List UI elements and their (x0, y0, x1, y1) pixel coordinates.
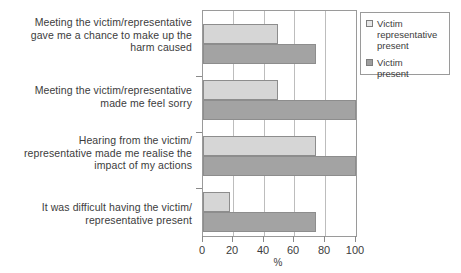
bar-cat0-series0 (203, 24, 278, 44)
legend-label-1: Victim present (377, 57, 409, 79)
x-axis-tick-20 (232, 236, 233, 242)
x-axis-title: % (258, 257, 298, 268)
x-axis-tick-60 (293, 236, 294, 242)
legend-item-1[interactable]: Victim present (366, 57, 445, 79)
category-label-2-line-1: representative made me realise the (0, 147, 192, 160)
x-axis-tick-0 (202, 236, 203, 242)
y-axis-tick-0 (196, 76, 202, 77)
x-axis-tick-100 (355, 236, 356, 242)
legend-label-1-line-0: Victim (377, 57, 403, 68)
bar-cat0-series1 (203, 44, 316, 64)
bar-cat3-series0 (203, 192, 230, 212)
bar-chart: Meeting the victim/representative gave m… (0, 0, 461, 273)
y-axis-tick-1 (196, 132, 202, 133)
legend-label-0-line-2: present (377, 40, 409, 51)
chart-legend: Victim representative present Victim pre… (360, 12, 450, 75)
category-label-0-line-1: gave me a chance to make up the (0, 29, 192, 42)
legend-label-1-line-1: present (377, 68, 409, 79)
bar-cat1-series1 (203, 100, 356, 120)
category-label-1: Meeting the victim/representative made m… (0, 84, 192, 109)
bar-cat3-series1 (203, 212, 316, 232)
category-label-0: Meeting the victim/representative gave m… (0, 16, 192, 54)
x-axis-label-100: 100 (335, 244, 375, 257)
category-label-2-line-2: impact of my actions (0, 159, 192, 172)
legend-label-0-line-0: Victim (377, 18, 403, 29)
x-axis-tick-80 (324, 236, 325, 242)
category-label-2-line-0: Hearing from the victim/ (0, 134, 192, 147)
category-label-1-line-0: Meeting the victim/representative (0, 84, 192, 97)
category-axis-labels: Meeting the victim/representative gave m… (0, 10, 192, 235)
category-label-3: It was difficult having the victim/ repr… (0, 201, 192, 226)
bar-cat1-series0 (203, 80, 278, 100)
category-label-1-line-1: made me feel sorry (0, 97, 192, 110)
category-label-3-line-1: representative present (0, 214, 192, 227)
legend-label-0-line-1: representative (377, 29, 437, 40)
x-axis-tick-40 (263, 236, 264, 242)
category-label-2: Hearing from the victim/ representative … (0, 134, 192, 172)
category-label-3-line-0: It was difficult having the victim/ (0, 201, 192, 214)
gridline-80 (325, 11, 326, 236)
category-label-0-line-2: harm caused (0, 41, 192, 54)
legend-label-0: Victim representative present (377, 18, 437, 51)
legend-swatch-icon-1 (366, 59, 373, 66)
bar-cat2-series0 (203, 136, 316, 156)
plot-area (202, 10, 357, 237)
y-axis-tick-2 (196, 188, 202, 189)
legend-swatch-icon-0 (366, 20, 373, 27)
bar-cat2-series1 (203, 156, 356, 176)
legend-item-0[interactable]: Victim representative present (366, 18, 445, 51)
category-label-0-line-0: Meeting the victim/representative (0, 16, 192, 29)
